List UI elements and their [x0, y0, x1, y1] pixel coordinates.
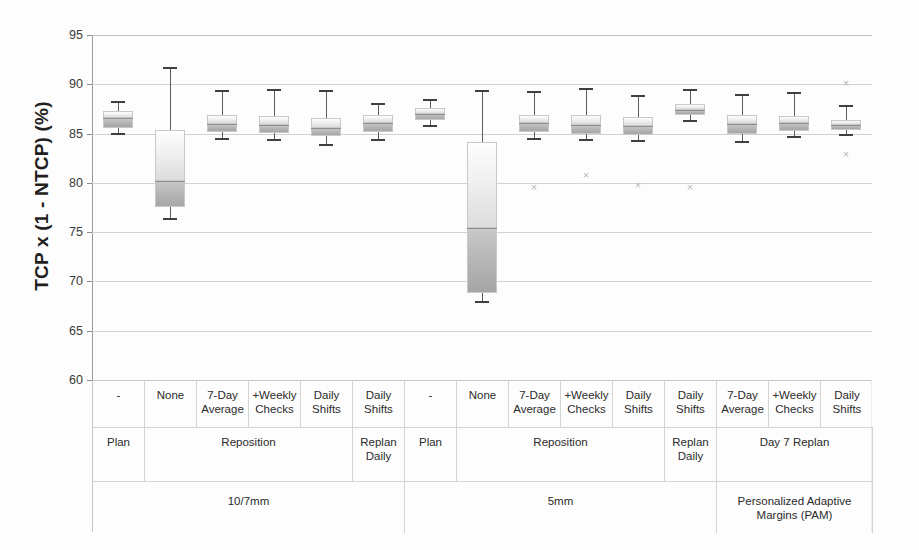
group-cell: Replan Daily	[665, 427, 717, 481]
whisker-upper	[170, 67, 171, 130]
margin-label: 5mm	[548, 494, 574, 508]
box-upper-quartile	[623, 117, 653, 126]
y-tick-label-90: 90	[69, 77, 83, 91]
detail-cell: +Weekly Checks	[561, 381, 613, 427]
box-lower-quartile	[727, 124, 757, 134]
whisker-upper	[742, 94, 743, 115]
box-upper-quartile	[311, 118, 341, 128]
box-lower-quartile	[519, 123, 549, 132]
box-lower-quartile	[207, 124, 237, 132]
detail-label: Daily Shifts	[301, 388, 352, 416]
group-label: Replan Daily	[665, 435, 716, 463]
detail-cell: None	[457, 381, 509, 427]
detail-label: 7-Day Average	[197, 388, 248, 416]
y-tick-label-80: 80	[69, 176, 83, 190]
box-upper-quartile	[519, 115, 549, 123]
y-tick-label-60: 60	[69, 373, 83, 387]
box-upper-quartile	[467, 142, 497, 228]
detail-label: 7-Day Average	[509, 388, 560, 416]
detail-cell: -	[93, 381, 145, 427]
detail-label: None	[469, 388, 497, 402]
box-plot	[155, 35, 185, 380]
box-upper-quartile	[363, 115, 393, 123]
box-plot	[727, 35, 757, 380]
whisker-lower	[326, 136, 327, 145]
detail-label: +Weekly Checks	[769, 388, 820, 416]
box-plot	[675, 35, 705, 380]
box-lower-quartile	[259, 125, 289, 133]
cap-upper	[423, 99, 437, 101]
whisker-lower	[482, 293, 483, 301]
detail-label: -	[429, 388, 433, 402]
median-line	[103, 118, 133, 119]
cap-lower	[163, 218, 177, 220]
median-line	[675, 110, 705, 111]
whisker-upper	[794, 92, 795, 116]
median-line	[519, 123, 549, 124]
median-line	[571, 125, 601, 126]
group-label: Day 7 Replan	[760, 435, 830, 449]
cap-upper	[579, 88, 593, 90]
detail-label: -	[117, 388, 121, 402]
whisker-lower	[378, 132, 379, 140]
group-cell: Plan	[93, 427, 145, 481]
box-plot	[207, 35, 237, 380]
whisker-lower	[274, 133, 275, 140]
box-plot	[363, 35, 393, 380]
cap-upper	[787, 92, 801, 94]
cap-lower	[111, 133, 125, 135]
group-cell: Day 7 Replan	[717, 427, 873, 481]
detail-cell: 7-Day Average	[509, 381, 561, 427]
y-tick-label-75: 75	[69, 225, 83, 239]
cap-lower	[423, 125, 437, 127]
detail-cell: Daily Shifts	[301, 381, 353, 427]
box-lower-quartile	[571, 125, 601, 134]
cap-upper	[111, 101, 125, 103]
median-line	[415, 114, 445, 115]
outlier-marker: ×	[842, 79, 851, 88]
box-lower-quartile	[103, 118, 133, 128]
group-cell: Reposition	[145, 427, 353, 481]
cap-upper	[839, 105, 853, 107]
detail-cell: Daily Shifts	[821, 381, 873, 427]
box-upper-quartile	[727, 115, 757, 124]
cap-upper	[475, 90, 489, 92]
margin-cell: 5mm	[405, 481, 717, 533]
outlier-marker: ×	[634, 181, 643, 190]
cap-lower	[787, 136, 801, 138]
detail-cell: +Weekly Checks	[769, 381, 821, 427]
whisker-upper	[326, 90, 327, 118]
y-tick-label-70: 70	[69, 274, 83, 288]
detail-label: Daily Shifts	[353, 388, 404, 416]
cap-lower	[579, 139, 593, 141]
box-upper-quartile	[571, 115, 601, 125]
cap-upper	[371, 103, 385, 105]
whisker-upper	[534, 91, 535, 115]
y-tick-label-85: 85	[69, 127, 83, 141]
cap-lower	[215, 138, 229, 140]
whisker-upper	[690, 89, 691, 104]
detail-label: +Weekly Checks	[561, 388, 612, 416]
group-label: Reposition	[221, 435, 275, 449]
median-line	[155, 181, 185, 182]
detail-cell: 7-Day Average	[717, 381, 769, 427]
margin-label: 10/7mm	[228, 494, 270, 508]
whisker-upper	[638, 95, 639, 117]
category-table: -None7-Day Average+Weekly ChecksDaily Sh…	[92, 380, 872, 532]
outlier-marker: ×	[686, 183, 695, 192]
box-upper-quartile	[155, 130, 185, 181]
whisker-upper	[222, 90, 223, 115]
table-row-group: PlanRepositionReplan DailyPlanReposition…	[93, 427, 873, 481]
whisker-upper	[846, 105, 847, 120]
group-cell: Plan	[405, 427, 457, 481]
margin-cell: Personalized Adaptive Margins (PAM)	[717, 481, 873, 533]
detail-cell: +Weekly Checks	[249, 381, 301, 427]
cap-upper	[215, 90, 229, 92]
group-label: Replan Daily	[353, 435, 404, 463]
cap-lower	[683, 120, 697, 122]
whisker-lower	[742, 134, 743, 142]
cap-lower	[475, 301, 489, 303]
box-plot	[623, 35, 653, 380]
box-plot	[259, 35, 289, 380]
box-plot	[311, 35, 341, 380]
